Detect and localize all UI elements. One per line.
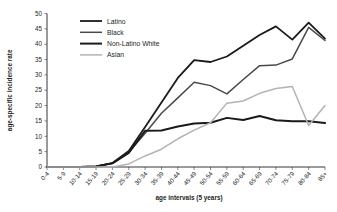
y-axis-title: age-specific incidence rate [6,49,14,131]
x-tick-label: 10-14 [67,170,83,187]
y-tick-label: 20 [35,102,43,109]
y-axis-title-text: age-specific incidence rate [6,49,14,131]
y-tick-label: 10 [35,133,43,140]
x-tick-label: 30-34 [133,170,149,187]
x-tick-label: 85+ [316,170,328,183]
x-axis-ticks: 0-45-910-1415-1920-2425-2930-3435-3940-4… [39,167,328,186]
series-line-black [47,27,325,167]
legend-label-black: Black [107,29,124,36]
y-tick-label: 5 [38,148,42,155]
chart-figure: age-specific incidence rate 051015202530… [0,0,337,212]
x-tick-label: 70-74 [263,170,279,187]
x-tick-label: 35-39 [149,170,165,187]
x-tick-label: 5-9 [56,170,68,182]
x-tick-label: 45-49 [182,170,198,187]
x-tick-label: 15-19 [84,170,100,187]
x-axis-title-text: age intervals (5 years) [155,194,222,202]
x-tick-label: 25-29 [116,170,132,187]
chart-legend: LatinoBlackNon-Latino WhiteAsian [80,18,160,59]
y-tick-label: 0 [38,163,42,170]
x-tick-label: 65-69 [247,170,263,187]
x-tick-label: 75-79 [280,170,296,187]
series-line-asian [47,87,325,167]
x-tick-label: 40-44 [165,170,181,187]
y-tick-label: 25 [35,86,43,93]
y-tick-label: 50 [35,10,43,17]
x-tick-label: 60-64 [231,170,247,187]
x-tick-label: 80-84 [296,170,312,187]
x-tick-label: 0-4 [39,170,51,182]
y-tick-label: 35 [35,56,43,63]
x-tick-label: 20-24 [100,170,116,187]
y-tick-label: 30 [35,71,43,78]
legend-label-latino: Latino [107,18,126,25]
legend-label-non-latino-white: Non-Latino White [107,40,160,47]
y-tick-label: 40 [35,40,43,47]
y-axis-ticks: 05101520253035404550 [35,10,47,171]
line-chart: age-specific incidence rate 051015202530… [0,0,337,212]
y-tick-label: 15 [35,117,43,124]
x-tick-label: 50-54 [198,170,214,187]
legend-label-asian: Asian [107,51,124,58]
x-tick-label: 55-59 [214,170,230,187]
x-axis-title: age intervals (5 years) [155,194,222,202]
series-line-non-latino-white [47,116,325,167]
y-tick-label: 45 [35,25,43,32]
